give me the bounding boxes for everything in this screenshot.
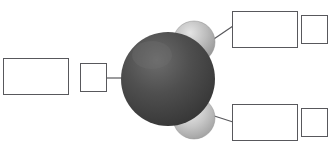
label-box-top-right-name[interactable] — [232, 11, 298, 48]
central-atom-sphere — [121, 32, 215, 126]
label-box-left-name[interactable] — [3, 58, 69, 95]
label-box-bottom-right-symbol[interactable] — [301, 108, 328, 137]
label-box-bottom-right-name[interactable] — [232, 104, 298, 141]
central-atom-highlight — [132, 41, 172, 69]
label-box-left-symbol[interactable] — [80, 63, 107, 92]
label-box-top-right-symbol[interactable] — [301, 15, 328, 44]
molecule-labeling-diagram — [0, 0, 334, 151]
